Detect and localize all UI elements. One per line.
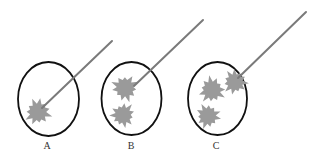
panel-b: B (102, 20, 204, 151)
needle-line (238, 12, 306, 78)
ellipse-outline (18, 62, 79, 136)
star-cluster (109, 76, 138, 128)
panel-c: C (188, 12, 306, 151)
needle-line (134, 20, 203, 86)
star-burst-icon (225, 69, 249, 94)
ellipse-outline (102, 62, 162, 135)
star-burst-icon (197, 104, 221, 129)
star-burst-icon (111, 76, 138, 102)
panel-label-c: C (213, 140, 220, 151)
diagram-canvas: A B C (0, 0, 320, 159)
needle-injection-diagram: A B C (0, 0, 320, 159)
star-burst-icon (199, 75, 225, 101)
star-burst-icon (109, 103, 134, 128)
panel-label-a: A (43, 140, 51, 151)
panel-a: A (18, 41, 112, 151)
ellipse-outline (188, 62, 247, 135)
panel-label-b: B (128, 140, 135, 151)
